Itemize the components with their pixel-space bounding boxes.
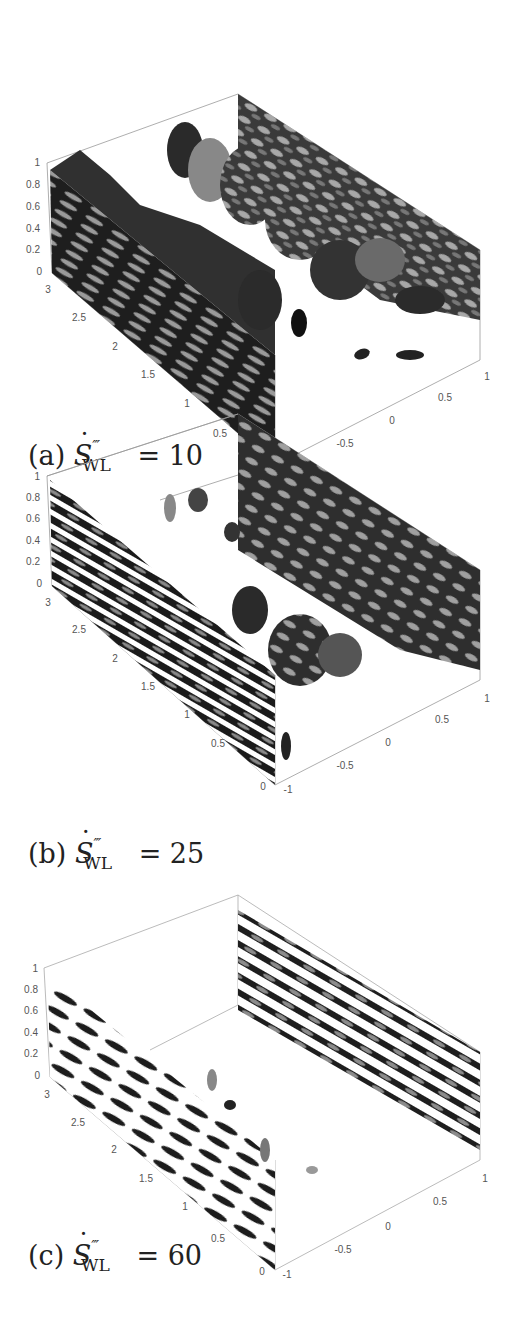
svg-text:0.4: 0.4 <box>24 1027 38 1038</box>
panel-b: 1 0.8 0.6 0.4 0.2 0 3 2.5 2 1.5 1 0.5 0 … <box>0 400 526 820</box>
svg-text:1: 1 <box>484 693 490 704</box>
svg-text:1: 1 <box>484 371 490 382</box>
svg-text:2: 2 <box>112 653 118 664</box>
z-axis-ticks: 1 0.8 0.6 0.4 0.2 0 <box>26 471 42 589</box>
panel-c: 1 0.8 0.6 0.4 0.2 0 3 2.5 2 1.5 1 0.5 0 … <box>0 880 526 1300</box>
z-axis-ticks: 1 0.8 0.6 0.4 0.2 0 <box>26 157 42 277</box>
svg-text:1: 1 <box>34 471 40 482</box>
z-axis-ticks: 1 0.8 0.6 0.4 0.2 0 <box>24 963 40 1081</box>
svg-text:-0.5: -0.5 <box>336 760 354 771</box>
svg-text:0.5: 0.5 <box>433 1196 447 1207</box>
svg-text:0: 0 <box>260 781 266 792</box>
svg-text:1: 1 <box>34 157 40 168</box>
svg-text:0.4: 0.4 <box>26 223 40 234</box>
y-axis-ticks: -1 -0.5 0 0.5 1 <box>284 693 491 795</box>
svg-text:3: 3 <box>44 1089 50 1100</box>
svg-text:1: 1 <box>184 709 190 720</box>
svg-text:3: 3 <box>45 597 51 608</box>
y-axis-ticks: -1 -0.5 0 0.5 1 <box>283 1173 489 1280</box>
svg-text:0.6: 0.6 <box>26 201 40 212</box>
svg-text:2.5: 2.5 <box>71 1117 85 1128</box>
svg-text:0: 0 <box>259 1266 265 1277</box>
svg-text:0.2: 0.2 <box>26 244 40 255</box>
svg-text:3: 3 <box>45 284 51 295</box>
svg-text:-1: -1 <box>283 1269 292 1280</box>
svg-text:2: 2 <box>112 341 118 352</box>
svg-text:2: 2 <box>111 1144 117 1155</box>
svg-text:0.2: 0.2 <box>26 556 40 567</box>
caption-c: (c) ˙S‴WL = 60 <box>28 1240 202 1275</box>
svg-text:0: 0 <box>36 578 42 589</box>
svg-text:0: 0 <box>385 1221 391 1232</box>
caption-b: (b) ˙S‴WL = 25 <box>28 838 204 873</box>
svg-text:1: 1 <box>182 1201 188 1212</box>
svg-text:0.4: 0.4 <box>26 535 40 546</box>
svg-text:0.5: 0.5 <box>211 1233 225 1244</box>
svg-text:0.2: 0.2 <box>24 1048 38 1059</box>
svg-text:2.5: 2.5 <box>72 624 86 635</box>
svg-text:0.8: 0.8 <box>26 179 40 190</box>
svg-text:0.5: 0.5 <box>435 714 449 725</box>
svg-text:0.6: 0.6 <box>26 513 40 524</box>
box-plot-b: 1 0.8 0.6 0.4 0.2 0 3 2.5 2 1.5 1 0.5 0 … <box>0 400 526 880</box>
panel-a: 1 0.8 0.6 0.4 0.2 0 3 2.5 2 1.5 1 0.5 0 … <box>0 0 526 420</box>
svg-text:0: 0 <box>34 1070 40 1081</box>
svg-text:1: 1 <box>482 1173 488 1184</box>
svg-text:1.5: 1.5 <box>141 369 155 380</box>
svg-text:0.8: 0.8 <box>24 984 38 995</box>
back-wall-structures <box>238 910 480 1150</box>
svg-text:0: 0 <box>36 266 42 277</box>
svg-text:2.5: 2.5 <box>72 312 86 323</box>
svg-text:-0.5: -0.5 <box>334 1244 352 1255</box>
svg-text:1: 1 <box>32 963 38 974</box>
svg-text:0.5: 0.5 <box>211 738 225 749</box>
svg-text:0.8: 0.8 <box>26 492 40 503</box>
svg-text:0: 0 <box>385 737 391 748</box>
svg-text:0.6: 0.6 <box>24 1005 38 1016</box>
svg-text:1.5: 1.5 <box>139 1173 153 1184</box>
svg-text:1.5: 1.5 <box>141 681 155 692</box>
svg-text:-1: -1 <box>284 784 293 795</box>
